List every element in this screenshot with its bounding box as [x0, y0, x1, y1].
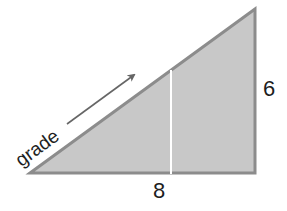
grade-diagram: grade 8 6: [0, 0, 287, 211]
height-label: 6: [263, 76, 275, 101]
base-label: 8: [153, 178, 165, 203]
right-triangle: [30, 9, 255, 173]
